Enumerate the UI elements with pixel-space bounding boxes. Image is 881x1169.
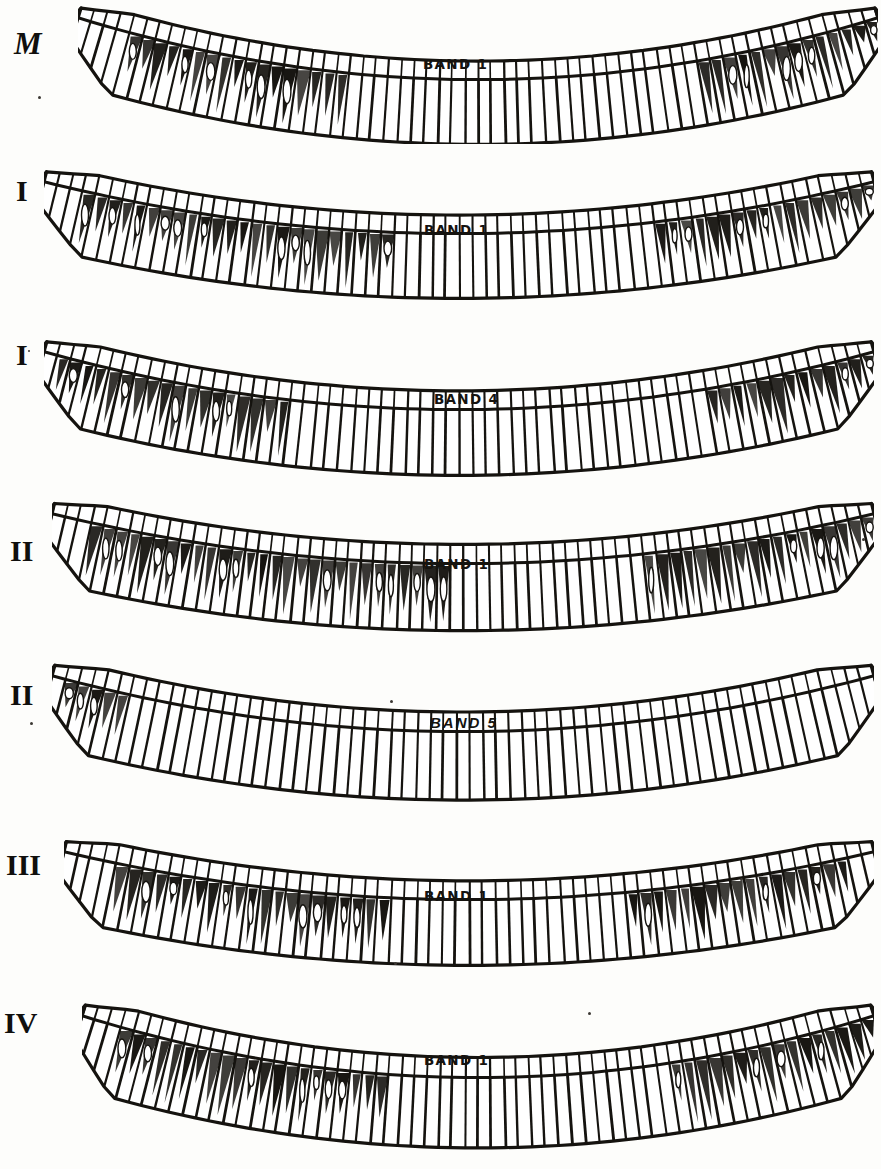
band-label-row-iii: BAND 1 xyxy=(424,888,489,904)
plate-speck-1 xyxy=(28,350,30,352)
specimen-figure-row-m xyxy=(78,4,878,144)
specimen-plate: MBAND 1IBAND 1IBAND 4IIBAND 1IIBAND 5III… xyxy=(0,0,881,1169)
specimen-figure-row-i-1 xyxy=(44,168,874,308)
plate-speck-3 xyxy=(30,722,33,725)
band-label-row-ii-2: BAND 5 xyxy=(430,714,498,731)
band-label-row-i-1: BAND 1 xyxy=(424,222,489,238)
specimen-numeral-row-i-1: I xyxy=(16,176,28,206)
band-label-row-i-2: BAND 4 xyxy=(434,391,499,407)
specimen-numeral-row-ii-1: II xyxy=(10,536,33,566)
specimen-numeral-row-m: M xyxy=(14,28,42,59)
band-label-row-m: BAND 1 xyxy=(423,56,488,72)
specimen-numeral-row-iii: III xyxy=(6,850,41,880)
plate-speck-7 xyxy=(588,1012,591,1015)
plate-speck-5 xyxy=(740,878,743,881)
band-label-row-ii-1: BAND 1 xyxy=(424,556,489,572)
specimen-figure-row-iv xyxy=(82,1002,874,1154)
band-label-row-iv: BAND 1 xyxy=(424,1052,489,1068)
plate-speck-0 xyxy=(38,96,41,99)
specimen-figure-row-i-2 xyxy=(44,338,874,480)
plate-speck-6 xyxy=(394,962,397,965)
specimen-figure-row-ii-2 xyxy=(52,662,874,810)
specimen-numeral-row-i-2: I xyxy=(16,340,28,370)
specimen-figure-row-iii xyxy=(64,838,874,980)
specimen-numeral-row-iv: IV xyxy=(4,1008,37,1038)
plate-speck-4 xyxy=(390,700,393,703)
specimen-numeral-row-ii-2: II xyxy=(10,680,33,710)
plate-speck-2 xyxy=(862,538,865,541)
specimen-figure-row-ii-1 xyxy=(52,500,874,645)
